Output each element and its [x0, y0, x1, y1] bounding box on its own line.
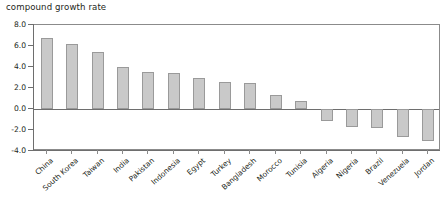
x-axis-tick — [147, 150, 148, 154]
x-axis-tick-label-text: Brazil — [364, 156, 385, 176]
bar — [117, 67, 129, 109]
y-axis-tick-label: -2.0 — [0, 125, 26, 134]
y-axis-tick-label: -4.0 — [0, 146, 26, 155]
x-axis-tick-label: Taiwan — [81, 156, 106, 180]
x-axis-tick-label: Morocco — [255, 156, 284, 183]
x-axis-tick-label-text: Morocco — [255, 156, 284, 183]
y-axis-tick — [28, 45, 33, 46]
bar — [270, 95, 282, 109]
x-axis-tick — [249, 150, 250, 154]
x-axis-tick-label: Brazil — [364, 156, 385, 176]
x-axis-tick — [326, 150, 327, 154]
bar — [295, 101, 307, 109]
x-axis-tick — [402, 150, 403, 154]
y-axis-tick-label: 0.0 — [0, 104, 26, 113]
y-axis-tick — [28, 87, 33, 88]
bar — [397, 109, 409, 137]
x-axis-tick-label-text: Jordan — [413, 156, 436, 178]
bar — [92, 52, 104, 109]
bar — [371, 109, 383, 128]
y-axis-tick — [28, 108, 33, 109]
x-axis-tick-label-text: Nigeria — [334, 156, 360, 180]
x-axis-tick-label: India — [112, 156, 132, 175]
x-axis-tick — [46, 150, 47, 154]
bar — [142, 72, 154, 109]
x-axis-tick — [97, 150, 98, 154]
bar — [244, 83, 256, 109]
x-axis-tick — [376, 150, 377, 154]
bar — [168, 73, 180, 109]
x-axis-tick-label: Tunisia — [284, 156, 309, 180]
x-axis-tick — [198, 150, 199, 154]
bar-chart: compound growth rate 8.06.04.02.00.0-2.0… — [0, 0, 446, 218]
bar — [193, 78, 205, 110]
x-axis-line — [33, 150, 440, 151]
y-axis-tick-label: 4.0 — [0, 62, 26, 71]
x-axis-tick — [224, 150, 225, 154]
x-axis-tick-label: Nigeria — [334, 156, 360, 180]
x-axis-tick-label-text: India — [112, 156, 132, 175]
x-axis-tick — [427, 150, 428, 154]
y-axis-line — [33, 24, 34, 151]
plot-area — [33, 24, 440, 150]
x-axis-tick-label-text: China — [33, 156, 55, 177]
bar — [422, 109, 434, 141]
y-axis-tick-label: 8.0 — [0, 20, 26, 29]
x-axis-tick — [300, 150, 301, 154]
x-axis-tick-label: China — [33, 156, 55, 177]
y-axis-tick — [28, 129, 33, 130]
y-axis-tick-label: 6.0 — [0, 41, 26, 50]
bar — [66, 44, 78, 109]
x-axis-tick-label: Jordan — [413, 156, 436, 178]
x-axis-tick — [122, 150, 123, 154]
bar — [346, 109, 358, 127]
x-axis-tick — [351, 150, 352, 154]
x-axis-tick — [71, 150, 72, 154]
x-axis-tick — [173, 150, 174, 154]
x-axis-tick-label-text: Algeria — [309, 156, 334, 180]
x-axis-tick-label-text: Taiwan — [81, 156, 106, 180]
bar — [219, 82, 231, 109]
y-axis-tick — [28, 66, 33, 67]
bar — [321, 109, 333, 121]
y-axis-tick-label: 2.0 — [0, 83, 26, 92]
x-axis-tick — [275, 150, 276, 154]
x-axis-tick-label: Algeria — [309, 156, 334, 180]
chart-title: compound growth rate — [6, 2, 106, 12]
x-axis-tick-label-text: Tunisia — [284, 156, 309, 180]
bar — [41, 38, 53, 109]
x-axis-tick-label: Egypt — [185, 156, 207, 177]
y-axis-tick — [28, 24, 33, 25]
x-axis-tick-label-text: Egypt — [185, 156, 207, 177]
plot-inner — [34, 25, 439, 149]
